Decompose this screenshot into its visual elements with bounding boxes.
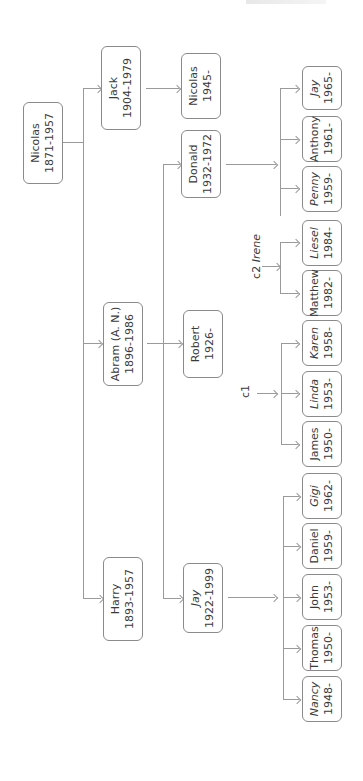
arrow-icon <box>293 644 301 652</box>
node-gigi: Gigi1962- <box>302 473 342 519</box>
node-years: 1950- <box>322 427 336 460</box>
arrow-icon <box>292 389 300 397</box>
node-thomas: Thomas1950- <box>302 625 342 671</box>
node-donald: Donald1932-1972 <box>181 130 221 198</box>
arrow-icon <box>292 440 300 448</box>
arrow-icon <box>175 339 183 347</box>
node-name: Harry <box>109 569 123 629</box>
node-years: 1982- <box>322 269 336 317</box>
arrow-icon <box>292 135 300 143</box>
node-years: 1896-1986 <box>123 307 137 382</box>
node-liesel: Liesel1984- <box>302 220 342 266</box>
node-years: 1958- <box>322 327 336 359</box>
arrow-icon <box>270 593 278 601</box>
node-years: 1950- <box>322 626 336 670</box>
node-nicolas-jr: Nicolas1945- <box>181 53 221 119</box>
node-robert: Robert1926- <box>183 310 223 378</box>
node-daniel: Daniel1959- <box>302 523 342 569</box>
arrow-icon <box>95 339 103 347</box>
node-years: 1904-1979 <box>121 58 135 118</box>
node-nancy: Nancy1948- <box>302 676 342 722</box>
node-jay-jr: Jay1965- <box>302 66 342 110</box>
node-name: Abram (A. N.) <box>109 307 123 382</box>
arrow-icon <box>293 593 301 601</box>
node-years: 1959- <box>322 172 336 206</box>
node-name: John <box>308 581 322 613</box>
node-name: Robert <box>189 326 203 362</box>
node-penny: Penny1959- <box>302 166 342 212</box>
node-years: 1984- <box>322 227 336 259</box>
node-years: 1893-1957 <box>123 569 137 629</box>
node-years: 1961- <box>322 116 336 162</box>
marriage-label-c2: c2 Irene <box>250 234 263 279</box>
node-name: Jay <box>308 72 322 104</box>
node-years: 1959- <box>322 528 336 563</box>
arrow-icon <box>270 160 278 168</box>
node-root-nicolas: Nicolas 1871-1957 <box>23 102 63 184</box>
node-anthony: Anthony1961- <box>302 116 342 162</box>
node-years: 1965- <box>322 72 336 104</box>
arrow-icon <box>292 184 300 192</box>
node-name: Nicolas <box>29 113 43 173</box>
connector <box>281 343 282 445</box>
node-name: Linda <box>308 378 322 410</box>
connector <box>280 88 281 216</box>
arrow-icon <box>292 84 300 92</box>
connector <box>63 142 83 143</box>
arrow-icon <box>292 339 300 347</box>
arrow-icon <box>292 289 300 297</box>
arrow-icon <box>292 238 300 246</box>
node-harry: Harry1893-1957 <box>103 557 143 641</box>
node-years: 1945- <box>201 66 215 106</box>
arrow-icon <box>293 542 301 550</box>
node-john: John1953- <box>302 574 342 620</box>
node-name: Jay <box>189 568 203 628</box>
node-name: Matthew <box>308 269 322 317</box>
marriage-label-c1: c1 <box>239 385 252 398</box>
node-name: Daniel <box>308 528 322 563</box>
node-jack: Jack1904-1979 <box>101 46 141 130</box>
node-name: Penny <box>308 172 322 206</box>
connector <box>283 496 284 700</box>
node-name: Karen <box>308 327 322 359</box>
connector <box>280 242 281 294</box>
arrow-icon <box>293 492 301 500</box>
node-years: 1962- <box>322 480 336 512</box>
node-abram: Abram (A. N.)1896-1986 <box>103 302 143 386</box>
node-name: Donald <box>187 134 201 194</box>
node-years: 1953- <box>322 581 336 613</box>
node-name: Anthony <box>308 116 322 162</box>
node-james: James1950- <box>302 421 342 467</box>
node-years: 1948- <box>322 682 336 717</box>
node-years: 1953- <box>322 378 336 410</box>
connector <box>147 343 163 344</box>
node-years: 1871-1957 <box>43 113 57 173</box>
connector <box>163 164 164 599</box>
node-years: 1922-1999 <box>203 568 217 628</box>
node-name: Jack <box>107 58 121 118</box>
arrow-icon <box>293 695 301 703</box>
node-name: James <box>308 427 322 460</box>
node-linda: Linda1953- <box>302 371 342 417</box>
connector <box>228 597 275 598</box>
cropped-header-text <box>246 0 326 4</box>
node-name: Nicolas <box>187 66 201 106</box>
node-jay: Jay1922-1999 <box>183 563 223 633</box>
node-name: Thomas <box>308 626 322 670</box>
node-karen: Karen1958- <box>302 320 342 366</box>
node-matthew: Matthew1982- <box>302 270 342 316</box>
node-name: Liesel <box>308 227 322 259</box>
node-name: Gigi <box>308 480 322 512</box>
arrow-icon <box>173 84 181 92</box>
node-name: Nancy <box>308 682 322 717</box>
arrow-icon <box>270 389 278 397</box>
node-years: 1932-1972 <box>201 134 215 194</box>
node-years: 1926- <box>203 326 217 362</box>
